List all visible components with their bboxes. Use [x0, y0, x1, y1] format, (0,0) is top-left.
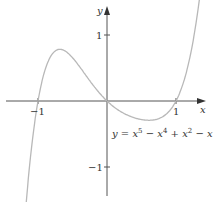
plot: y x −1 1 1 −1 y = x5 − x4 + x2 − x [0, 0, 217, 202]
tick-label-x-neg1: −1 [30, 106, 45, 117]
y-axis-label: y [96, 5, 103, 16]
tick-label-y-neg1: −1 [88, 162, 103, 173]
tick-label-x-1: 1 [173, 106, 179, 117]
y-axis-arrow-icon [104, 6, 110, 15]
x-axis-label: x [200, 104, 206, 115]
equation-label: y = x5 − x4 + x2 − x [111, 127, 213, 139]
tick-label-y-1: 1 [96, 30, 102, 41]
